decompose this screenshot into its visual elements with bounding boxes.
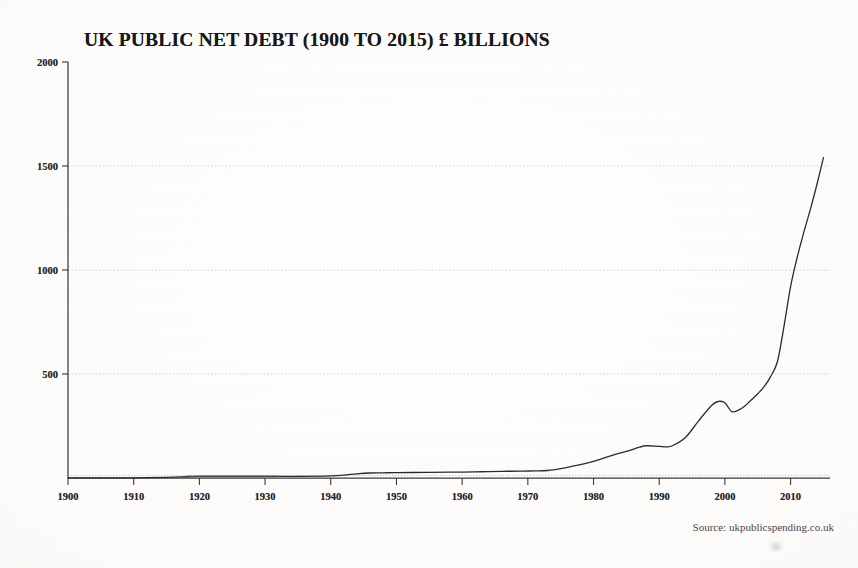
x-axis-tick-label: 1970	[517, 491, 538, 502]
y-axis-tick-label: 2000	[0, 57, 58, 68]
x-axis-tick-label: 1980	[583, 491, 604, 502]
x-axis-tick-label: 1940	[320, 491, 341, 502]
source-attribution: Source: ukpublicspending.co.uk	[693, 521, 834, 533]
x-axis-tick-label: 1990	[649, 491, 670, 502]
x-axis-tick-label: 1960	[452, 491, 473, 502]
scan-smudge-artifact	[769, 541, 783, 552]
chart-figure: UK PUBLIC NET DEBT (1900 TO 2015) £ BILL…	[0, 0, 858, 568]
gridlines	[68, 166, 830, 476]
axis-ticks	[62, 62, 791, 485]
x-axis-tick-label: 1900	[58, 491, 79, 502]
debt-line	[68, 158, 823, 478]
y-axis-tick-label: 500	[0, 369, 58, 380]
chart-plot-area	[0, 0, 858, 568]
x-axis-tick-label: 1930	[255, 491, 276, 502]
data-series-line	[68, 158, 823, 478]
x-axis-tick-label: 1950	[386, 491, 407, 502]
x-axis-tick-label: 1920	[189, 491, 210, 502]
y-axis-tick-label: 1500	[0, 161, 58, 172]
x-axis-tick-label: 2000	[714, 491, 735, 502]
x-axis-tick-label: 2010	[780, 491, 801, 502]
x-axis-tick-label: 1910	[123, 491, 144, 502]
y-axis-tick-label: 1000	[0, 265, 58, 276]
